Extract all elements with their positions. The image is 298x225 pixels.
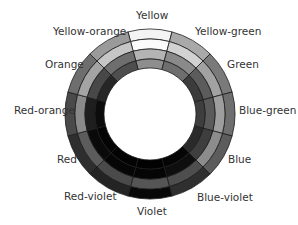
- ring-cell: [95, 100, 106, 128]
- label-blue-green: Blue-green: [239, 105, 296, 116]
- label-blue-violet: Blue-violet: [197, 192, 253, 203]
- ring-cell: [136, 158, 164, 169]
- label-red: Red: [57, 154, 77, 165]
- label-orange: Orange: [45, 59, 84, 70]
- label-green: Green: [227, 59, 259, 70]
- label-yellow-orange: Yellow-orange: [53, 26, 126, 37]
- ring-cell: [136, 59, 164, 70]
- label-blue: Blue: [228, 154, 251, 165]
- label-yellow: Yellow: [136, 10, 168, 21]
- color-wheel-diagram: YellowYellow-greenGreenBlue-greenBlueBlu…: [0, 0, 298, 225]
- ring-cell: [194, 100, 205, 128]
- label-red-violet: Red-violet: [64, 191, 117, 202]
- label-violet: Violet: [137, 206, 167, 217]
- label-yellow-green: Yellow-green: [195, 26, 261, 37]
- label-red-orange: Red-orange: [14, 105, 75, 116]
